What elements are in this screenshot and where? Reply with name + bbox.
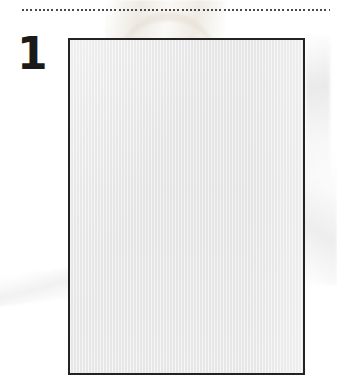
scan-watermark-top-center [105,0,225,42]
figure-placeholder-frame [68,38,305,375]
dotted-horizontal-rule [22,9,330,11]
scan-watermark-left-diagonal [0,267,78,307]
document-page: 1 [0,0,337,378]
scan-watermark-right-stem [306,34,330,184]
figure-inner-shading [70,40,303,373]
page-number: 1 [17,32,48,76]
scan-watermark-right-branch [300,150,337,285]
